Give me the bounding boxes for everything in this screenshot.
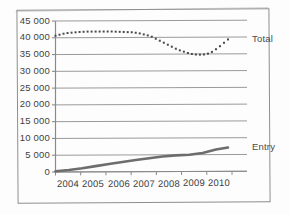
- total-point: [171, 46, 173, 48]
- total-point: [143, 33, 145, 35]
- total-point: [211, 51, 213, 53]
- gridline: [56, 121, 248, 122]
- total-point: [91, 31, 93, 33]
- total-point: [71, 32, 73, 34]
- x-axis-line: [56, 171, 248, 172]
- total-point: [195, 54, 197, 56]
- total-point: [79, 31, 81, 33]
- total-point: [227, 38, 229, 40]
- gridline: [56, 54, 248, 55]
- total-point: [107, 31, 109, 33]
- gridline: [56, 154, 248, 155]
- total-point: [203, 53, 205, 55]
- total-point: [219, 45, 221, 47]
- total-point: [55, 35, 57, 37]
- y-axis-label: 35 000: [20, 48, 50, 59]
- total-point: [87, 31, 89, 33]
- total-point: [99, 31, 101, 33]
- total-point: [151, 36, 153, 38]
- total-point: [183, 51, 185, 53]
- total-point: [95, 31, 97, 33]
- y-axis-label: 25 000: [20, 82, 50, 93]
- total-point: [127, 31, 129, 33]
- entry-line: [56, 147, 228, 171]
- series-label-entry: Entry: [252, 141, 275, 152]
- total-point: [223, 42, 225, 44]
- total-point: [63, 33, 65, 35]
- y-axis-label: 5 000: [25, 149, 50, 160]
- total-point: [123, 31, 125, 33]
- total-point: [199, 54, 201, 56]
- y-axis-label: 10 000: [20, 132, 50, 143]
- total-point: [131, 31, 133, 33]
- x-axis-label: 2004: [54, 178, 82, 189]
- y-axis-label: 15 000: [20, 115, 50, 126]
- x-axis-label: 2005: [79, 178, 107, 189]
- total-point: [139, 32, 141, 34]
- gridline: [56, 87, 248, 88]
- total-point: [191, 53, 193, 55]
- gridline: [56, 20, 248, 21]
- gridline: [56, 138, 248, 139]
- total-point: [207, 53, 209, 55]
- series-total-dots: [55, 31, 229, 56]
- x-axis-label: 2010: [205, 177, 233, 188]
- total-point: [67, 32, 69, 34]
- series-entry-line: [56, 147, 228, 171]
- chart-page: 05 00010 00015 00020 00025 00030 00035 0…: [0, 0, 289, 215]
- total-point: [179, 49, 181, 51]
- gridline: [56, 104, 248, 105]
- total-point: [111, 31, 113, 33]
- y-axis-label: 0: [45, 166, 50, 177]
- y-axis-label: 30 000: [20, 65, 50, 76]
- total-point: [103, 31, 105, 33]
- total-point: [115, 31, 117, 33]
- total-point: [135, 32, 137, 34]
- total-point: [59, 34, 61, 36]
- y-axis-label: 40 000: [20, 31, 50, 42]
- total-point: [83, 31, 85, 33]
- total-point: [167, 44, 169, 46]
- y-axis-label: 45 000: [20, 15, 50, 26]
- x-axis-label: 2006: [104, 178, 132, 189]
- total-point: [159, 40, 161, 42]
- y-axis-label: 20 000: [20, 98, 50, 109]
- total-point: [187, 52, 189, 54]
- total-point: [215, 48, 217, 50]
- total-point: [75, 31, 77, 33]
- total-point: [163, 42, 165, 44]
- x-axis-label: 2008: [155, 177, 183, 188]
- total-point: [119, 31, 121, 33]
- series-label-total: Total: [252, 33, 273, 44]
- total-point: [155, 38, 157, 40]
- total-point: [175, 48, 177, 50]
- gridline: [56, 71, 248, 72]
- x-axis-label: 2007: [130, 177, 158, 188]
- total-point: [147, 34, 149, 36]
